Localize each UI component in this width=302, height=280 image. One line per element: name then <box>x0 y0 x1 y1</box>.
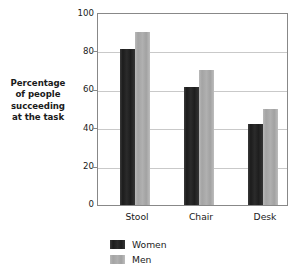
y-tick-label-40: 40 <box>70 124 94 133</box>
x-tick-label-desk: Desk <box>230 211 300 222</box>
y-axis-title-line-4: at the task <box>2 112 74 123</box>
y-tick-label-80: 80 <box>70 47 94 56</box>
bar-stool-men <box>135 32 150 205</box>
y-tick-label-60: 60 <box>70 85 94 94</box>
y-axis-title-line-2: of people <box>2 89 74 100</box>
bar-chair-men <box>199 70 214 205</box>
legend-label-men: Men <box>132 255 151 265</box>
bar-desk-women <box>248 124 264 205</box>
y-tick-label-20: 20 <box>70 162 94 171</box>
bar-chair-women <box>184 87 200 205</box>
legend-label-women: Women <box>132 240 167 250</box>
bar-chart-figure: Percentage of people succeeding at the t… <box>0 0 302 280</box>
plot-area <box>97 13 288 206</box>
y-tick-label-0: 0 <box>70 200 94 209</box>
y-axis-title: Percentage of people succeeding at the t… <box>2 78 74 124</box>
y-axis-title-line-3: succeeding <box>2 101 74 112</box>
legend-swatch-women-icon <box>110 240 125 249</box>
legend-item-women: Women <box>110 237 167 252</box>
legend-item-men: Men <box>110 252 167 267</box>
bar-stool-women <box>120 49 136 205</box>
legend-swatch-men-icon <box>110 255 125 264</box>
chart-legend: Women Men <box>110 237 167 267</box>
bar-desk-men <box>263 109 278 205</box>
x-tick-label-stool: Stool <box>102 211 172 222</box>
y-tick-label-100: 100 <box>70 9 94 18</box>
x-tick-label-chair: Chair <box>166 211 236 222</box>
y-axis-title-line-1: Percentage <box>2 78 74 89</box>
